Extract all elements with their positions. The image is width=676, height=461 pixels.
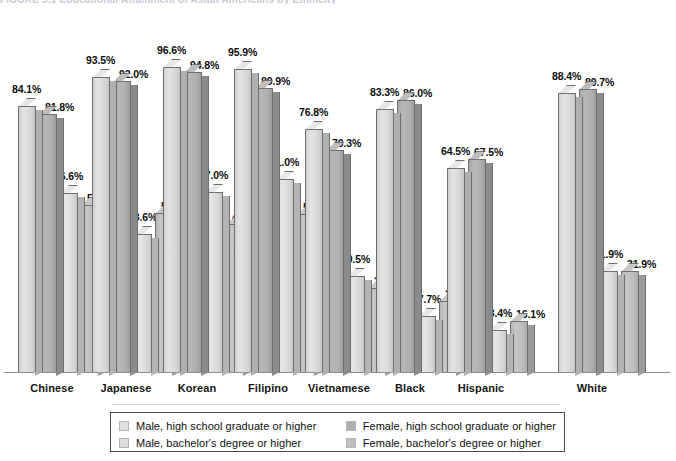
bar-japanese-s0[interactable] (92, 77, 110, 372)
legend-swatch-icon-male-ba (119, 438, 129, 448)
chart-page: FIGURE 5.1 Educational Attainment of Asi… (0, 0, 676, 461)
legend-item-female-hs: Female, high school graduate or higher (346, 420, 556, 432)
bar-side-face (251, 73, 259, 376)
bar-value-label: 83.3% (370, 86, 399, 98)
bar-side-face (364, 280, 372, 376)
bar-side-face (596, 93, 604, 376)
bar-value-label: 96.6% (157, 44, 186, 56)
bar-front-face (92, 77, 110, 372)
bar-white-s0[interactable] (558, 93, 576, 372)
bar-value-label: 88.4% (552, 70, 581, 82)
bar-side-face (222, 196, 230, 376)
legend-item-male-ba: Male, bachelor's degree or higher (119, 437, 346, 449)
bar-side-face (527, 325, 535, 376)
bar-side-face (151, 238, 159, 376)
legend-label-male-hs: Male, high school graduate or higher (136, 420, 316, 432)
legend-label-female-ba: Female, bachelor's degree or higher (363, 437, 541, 449)
bar-value-label: 93.5% (86, 54, 115, 66)
bar-side-face (130, 85, 138, 376)
legend-item-male-hs: Male, high school graduate or higher (119, 420, 346, 432)
bar-side-face (180, 71, 188, 376)
bar-korean-s0[interactable] (163, 67, 181, 372)
cut-off-title: FIGURE 5.1 Educational Attainment of Asi… (0, 0, 676, 4)
legend-label-female-hs: Female, high school graduate or higher (363, 420, 556, 432)
bar-vietnamese-s0[interactable] (305, 129, 323, 372)
bar-side-face (617, 275, 625, 376)
bar-black-s0[interactable] (376, 109, 394, 372)
chart-legend: Male, high school graduate or higher Fem… (110, 412, 565, 452)
bar-filipino-s0[interactable] (234, 69, 252, 372)
bar-front-face (447, 168, 465, 372)
bar-value-label: 76.8% (299, 106, 328, 118)
bar-side-face (201, 76, 209, 376)
bar-hispanic-s0[interactable] (447, 168, 465, 372)
bar-front-face (305, 129, 323, 372)
legend-swatch-icon-male-hs (119, 421, 129, 431)
bar-group-white: 88.4%89.7%31.9%31.9% (558, 8, 650, 372)
bar-side-face (506, 334, 514, 376)
bar-side-face (414, 104, 422, 376)
bar-chinese-s0[interactable] (18, 106, 36, 372)
bar-side-face (393, 113, 401, 376)
bar-front-face (163, 67, 181, 372)
bar-side-face (109, 81, 117, 376)
legend-label-male-ba: Male, bachelor's degree or higher (136, 437, 301, 449)
bar-side-face (343, 154, 351, 376)
bar-front-face (376, 109, 394, 372)
bar-side-face (485, 163, 493, 376)
bar-side-face (435, 320, 443, 376)
legend-rule (112, 404, 560, 405)
bar-side-face (77, 197, 85, 376)
legend-row-2: Male, bachelor's degree or higher Female… (119, 434, 556, 451)
bar-side-face (293, 183, 301, 376)
bar-value-label: 64.5% (441, 145, 470, 157)
bar-value-label: 84.1% (12, 83, 41, 95)
bar-side-face (575, 97, 583, 376)
cut-off-title-text: FIGURE 5.1 Educational Attainment of Asi… (0, 0, 676, 4)
x-axis-label-white: White (544, 382, 640, 394)
legend-swatch-icon-female-hs (346, 421, 356, 431)
x-axis-label-hispanic: Hispanic (433, 382, 529, 394)
bar-side-face (322, 133, 330, 376)
bar-value-label: 95.9% (228, 46, 257, 58)
bar-front-face (558, 93, 576, 372)
bar-front-face (234, 69, 252, 372)
legend-swatch-icon-female-ba (346, 438, 356, 448)
legend-item-female-ba: Female, bachelor's degree or higher (346, 437, 556, 449)
bar-side-face (464, 172, 472, 376)
bar-side-face (638, 275, 646, 376)
bar-side-face (272, 92, 280, 376)
bar-side-face (56, 118, 64, 376)
bar-front-face (18, 106, 36, 372)
legend-row-1: Male, high school graduate or higher Fem… (119, 417, 556, 434)
bar-side-face (35, 110, 43, 376)
bar-group-hispanic: 64.5%67.5%13.4%16.1% (447, 8, 539, 372)
